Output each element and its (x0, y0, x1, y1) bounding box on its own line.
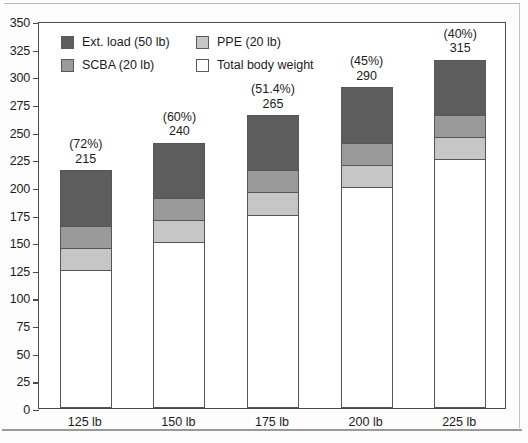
bar-stack (341, 87, 393, 408)
bar-percent-label: (51.4%) (251, 82, 295, 97)
y-axis-tick-label: 150 (10, 236, 30, 252)
y-axis-tick-label: 250 (10, 126, 30, 142)
bar-segment-scba-20-lb[interactable] (60, 226, 112, 248)
bar-value-annotation: (72%)215 (69, 137, 102, 166)
y-axis-tick-mark (33, 106, 39, 107)
bar-percent-label: (72%) (69, 137, 102, 152)
bar-group[interactable]: (51.4%)265 (247, 21, 299, 408)
frame-border-right (519, 3, 520, 428)
y-axis-tick-mark (33, 299, 39, 300)
bar-segment-total-body-weight[interactable] (247, 215, 299, 409)
legend-swatch-ppe-icon (196, 36, 209, 49)
y-axis-tick-mark (33, 355, 39, 356)
y-axis-tick-mark (33, 23, 39, 24)
bar-segment-scba-20-lb[interactable] (434, 115, 486, 137)
legend-item-ext-load[interactable]: Ext. load (50 lb) (61, 35, 196, 50)
plot-area: 3503253002752502252001751501251007550250… (38, 22, 506, 409)
bar-segment-ext-load-50-lb[interactable] (247, 115, 299, 170)
y-axis-tick-label: 50 (16, 347, 30, 363)
y-axis-tick-label: 100 (10, 291, 30, 307)
bar-value-annotation: (40%)315 (444, 27, 477, 56)
legend-swatch-scba-icon (61, 59, 74, 72)
y-axis-tick-label: 275 (10, 98, 30, 114)
y-axis-tick-label: 175 (10, 209, 30, 225)
x-axis-tick-label: 125 lb (68, 414, 102, 430)
chart-legend: Ext. load (50 lb) PPE (20 lb) SCBA (20 l… (61, 31, 361, 77)
bar-group[interactable]: (40%)315 (434, 21, 486, 408)
y-axis-tick-label: 300 (10, 70, 30, 86)
bar-group[interactable]: (72%)215 (60, 21, 112, 408)
figure-frame: 3503253002752502252001751501251007550250… (0, 0, 528, 443)
y-axis-tick-label: 75 (16, 319, 30, 335)
legend-swatch-body-weight-icon (196, 59, 209, 72)
bar-stack (153, 143, 205, 408)
bar-group[interactable]: (45%)290 (341, 21, 393, 408)
bar-segment-ext-load-50-lb[interactable] (434, 60, 486, 115)
y-axis-tick-mark (33, 161, 39, 162)
y-axis-tick-label: 25 (16, 374, 30, 390)
legend-swatch-ext-load-icon (61, 36, 74, 49)
y-axis-tick-mark (33, 189, 39, 190)
bar-segment-total-body-weight[interactable] (434, 159, 486, 408)
legend-item-total-body-weight[interactable]: Total body weight (196, 58, 314, 73)
bar-percent-label: (40%) (444, 27, 477, 42)
legend-label-total-body-weight: Total body weight (217, 58, 314, 73)
y-axis-tick-mark (33, 217, 39, 218)
x-axis-tick-label: 175 lb (255, 414, 289, 430)
bar-segment-total-body-weight[interactable] (341, 187, 393, 408)
legend-item-ppe[interactable]: PPE (20 lb) (196, 35, 281, 50)
bar-total-label: 240 (163, 124, 196, 139)
bar-value-annotation: (51.4%)265 (251, 82, 295, 111)
y-axis-tick-label: 125 (10, 264, 30, 280)
bar-segment-ppe-20-lb[interactable] (153, 220, 205, 242)
x-axis-tick-label: 200 lb (349, 414, 383, 430)
bar-segment-total-body-weight[interactable] (60, 270, 112, 408)
bar-stack (247, 115, 299, 408)
bar-total-label: 215 (69, 152, 102, 167)
bar-stack (434, 60, 486, 408)
x-axis-tick-label: 225 lb (442, 414, 476, 430)
bar-segment-ppe-20-lb[interactable] (341, 165, 393, 187)
bar-segment-ext-load-50-lb[interactable] (341, 87, 393, 142)
bar-total-label: 315 (444, 41, 477, 56)
legend-label-ext-load: Ext. load (50 lb) (82, 35, 170, 50)
legend-label-ppe: PPE (20 lb) (217, 35, 281, 50)
y-axis-tick-mark (33, 134, 39, 135)
bar-group[interactable]: (60%)240 (153, 21, 205, 408)
bar-percent-label: (60%) (163, 110, 196, 125)
y-axis-tick-mark (33, 382, 39, 383)
bar-total-label: 265 (251, 97, 295, 112)
bar-segment-ppe-20-lb[interactable] (434, 137, 486, 159)
legend-label-scba: SCBA (20 lb) (82, 58, 154, 73)
y-axis-tick-mark (33, 51, 39, 52)
bar-segment-ext-load-50-lb[interactable] (153, 143, 205, 198)
y-axis-tick-label: 350 (10, 15, 30, 31)
bar-segment-scba-20-lb[interactable] (341, 143, 393, 165)
bar-segment-ppe-20-lb[interactable] (247, 192, 299, 214)
bar-value-annotation: (60%)240 (163, 110, 196, 139)
x-axis-tick-label: 150 lb (161, 414, 195, 430)
legend-row-2: SCBA (20 lb) Total body weight (61, 54, 361, 77)
bar-segment-scba-20-lb[interactable] (153, 198, 205, 220)
y-axis-tick-label: 0 (23, 402, 30, 418)
bar-segment-ppe-20-lb[interactable] (60, 248, 112, 270)
y-axis-tick-mark (33, 78, 39, 79)
bar-segment-scba-20-lb[interactable] (247, 170, 299, 192)
y-axis-tick-mark (33, 410, 39, 411)
bar-segment-ext-load-50-lb[interactable] (60, 170, 112, 225)
legend-item-scba[interactable]: SCBA (20 lb) (61, 58, 196, 73)
y-axis-tick-mark (33, 244, 39, 245)
bar-stack (60, 170, 112, 408)
legend-row-1: Ext. load (50 lb) PPE (20 lb) (61, 31, 361, 54)
y-axis-tick-label: 200 (10, 181, 30, 197)
bar-segment-total-body-weight[interactable] (153, 242, 205, 408)
y-axis-tick-label: 225 (10, 153, 30, 169)
y-axis-tick-mark (33, 272, 39, 273)
frame-border-top (4, 3, 520, 4)
y-axis-tick-label: 325 (10, 43, 30, 59)
y-axis-tick-mark (33, 327, 39, 328)
